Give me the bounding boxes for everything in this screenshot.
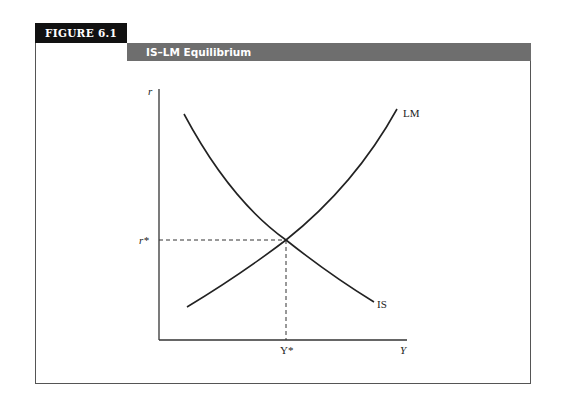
- y-axis-label: Y: [400, 344, 408, 356]
- y-star-label: Y*: [280, 344, 293, 356]
- is-lm-chart: r Y r* Y* IS LM: [0, 0, 561, 406]
- is-curve-label: IS: [377, 298, 387, 310]
- is-curve: [184, 114, 374, 302]
- lm-curve: [187, 109, 397, 307]
- lm-curve-label: LM: [403, 107, 420, 119]
- r-star-label: r*: [139, 234, 149, 246]
- r-axis-label: r: [148, 85, 153, 97]
